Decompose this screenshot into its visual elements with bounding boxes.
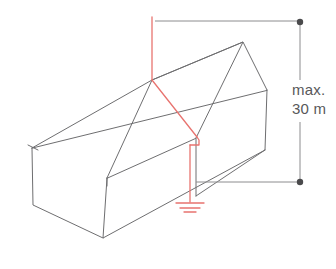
dimension-annotation xyxy=(155,21,300,182)
right-wall-edge xyxy=(265,90,267,150)
dimension-value-label: 30 m xyxy=(292,100,326,117)
earth-ground-icon xyxy=(176,203,204,212)
lightning-protection-diagram: max. 30 m xyxy=(0,0,336,269)
dimension-endpoint-dot-top xyxy=(297,19,303,25)
roof-back-slope xyxy=(32,42,267,148)
dimension-endpoint-dot-bottom xyxy=(297,179,303,185)
building-wireframe xyxy=(28,42,267,238)
left-gable-wall xyxy=(32,148,103,238)
front-wall xyxy=(103,150,265,238)
diagram-canvas xyxy=(0,0,336,269)
dimension-qualifier-label: max. xyxy=(292,81,325,98)
right-wall-base xyxy=(196,150,265,196)
